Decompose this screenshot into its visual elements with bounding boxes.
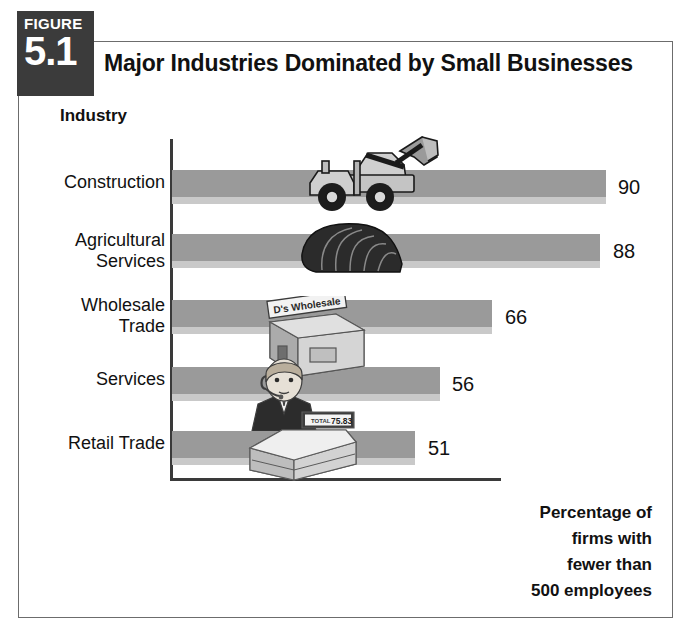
- register-total-label: TOTAL: [311, 418, 331, 424]
- register-amount: 75.83: [331, 416, 353, 426]
- plow-icon: [292, 218, 437, 280]
- value-label-construction: 90: [618, 176, 640, 199]
- category-label-retail-trade: Retail Trade: [15, 433, 165, 454]
- backhoe-icon: [296, 131, 456, 216]
- value-label-services: 56: [452, 373, 474, 396]
- value-label-retail-trade: 51: [428, 437, 450, 460]
- value-label-agricultural-services: 88: [613, 240, 635, 263]
- category-label-agricultural-services: Agricultural Services: [15, 230, 165, 272]
- figure-5-1: FIGURE 5.1 Major Industries Dominated by…: [0, 0, 690, 644]
- figure-number-badge: FIGURE 5.1: [17, 11, 94, 96]
- x-axis-caption: Percentage of firms with fewer than 500 …: [422, 500, 652, 604]
- category-label-services: Services: [15, 369, 165, 390]
- category-label-wholesale-trade: Wholesale Trade: [15, 295, 165, 337]
- figure-title: Major Industries Dominated by Small Busi…: [104, 50, 633, 77]
- cash-register-icon: TOTAL 75.83: [238, 408, 363, 486]
- caption-line-2: firms with: [422, 526, 652, 552]
- caption-line-3: fewer than: [422, 552, 652, 578]
- figure-number: 5.1: [24, 31, 94, 71]
- caption-line-4: 500 employees: [422, 578, 652, 604]
- category-label-construction: Construction: [15, 172, 165, 193]
- value-label-wholesale-trade: 66: [505, 306, 527, 329]
- y-axis-title: Industry: [60, 106, 127, 126]
- caption-line-1: Percentage of: [422, 500, 652, 526]
